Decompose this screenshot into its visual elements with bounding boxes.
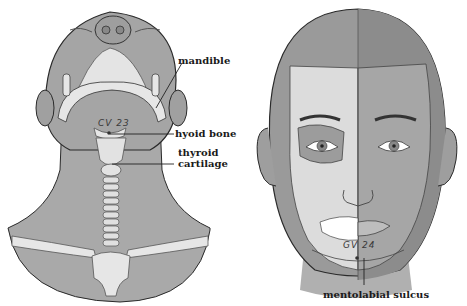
face-frontal-view — [240, 0, 467, 306]
right-ear — [169, 90, 187, 126]
gv24-point — [355, 256, 359, 260]
left-ear — [36, 90, 54, 126]
label-cv23: CV 23 — [98, 118, 130, 128]
anatomy-figure: mandible hyoid bone thyroid cartilage CV… — [0, 0, 467, 306]
label-hyoid-bone: hyoid bone — [175, 129, 236, 139]
label-mentolabial-sulcus: mentolabial sulcus — [323, 290, 429, 300]
label-cartilage: cartilage — [178, 159, 228, 169]
label-thyroid: thyroid — [178, 148, 218, 158]
label-mandible: mandible — [178, 56, 230, 66]
nose — [95, 16, 131, 44]
label-gv24: GV 24 — [343, 240, 375, 250]
